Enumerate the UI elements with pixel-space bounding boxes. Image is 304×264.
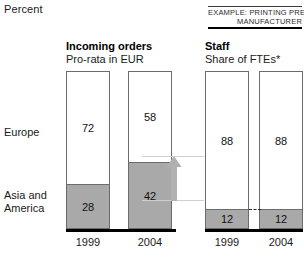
bar-value-label: 58 xyxy=(144,111,156,123)
bar-segment-europe: 88 xyxy=(206,72,248,209)
chart-figure: Percent EXAMPLE: PRINTING PRESS MANUFACT… xyxy=(0,0,304,264)
unit-label: Percent xyxy=(4,3,43,15)
x-axis-baseline xyxy=(205,229,303,232)
category-label-asia-america-line-2: America xyxy=(4,202,44,214)
bar-segment-asia-america: 12 xyxy=(206,209,248,228)
plot-area-staff: 88 12 88 12 xyxy=(205,71,303,232)
bar-staff-1999: 88 12 xyxy=(205,71,249,229)
bar-value-label: 12 xyxy=(275,213,287,225)
x-tick-label-orders-1999: 1999 xyxy=(66,236,110,248)
bar-value-label: 42 xyxy=(144,190,156,202)
bar-staff-2004: 88 12 xyxy=(259,71,303,229)
x-axis-baseline xyxy=(66,229,176,232)
category-label-asia-america: Asia and America xyxy=(4,189,47,215)
bar-value-label: 88 xyxy=(275,135,287,147)
bar-orders-1999: 72 28 xyxy=(66,71,110,229)
bar-segment-europe: 72 xyxy=(67,72,109,184)
panel-subtitle: Share of FTEs* xyxy=(205,53,280,66)
panel-heading-incoming-orders: Incoming orders Pro-rata in EUR xyxy=(66,40,152,66)
bar-segment-europe: 58 xyxy=(129,72,171,162)
x-tick-label-staff-2004: 2004 xyxy=(259,236,303,248)
example-callout-line-1: EXAMPLE: PRINTING PRESS xyxy=(208,8,302,17)
panel-subtitle: Pro-rata in EUR xyxy=(66,53,152,66)
bar-value-label: 12 xyxy=(221,213,233,225)
panel-title: Incoming orders xyxy=(66,40,152,53)
bar-value-label: 88 xyxy=(221,135,233,147)
bar-orders-2004: 58 42 xyxy=(128,71,172,229)
category-label-europe: Europe xyxy=(4,126,39,139)
bar-segment-asia-america: 28 xyxy=(67,184,109,228)
x-tick-label-orders-2004: 2004 xyxy=(128,236,172,248)
bar-segment-europe: 88 xyxy=(260,72,302,209)
example-callout: EXAMPLE: PRINTING PRESS MANUFACTURER xyxy=(208,6,302,29)
bar-value-label: 28 xyxy=(82,201,94,213)
panel-title: Staff xyxy=(205,40,280,53)
dashed-connector-line xyxy=(249,209,261,211)
plot-area-incoming-orders: 72 28 58 42 xyxy=(66,71,176,232)
bar-segment-asia-america: 12 xyxy=(260,209,302,228)
category-label-asia-america-line-1: Asia and xyxy=(4,189,47,201)
bar-segment-asia-america: 42 xyxy=(129,162,171,228)
panel-heading-staff: Staff Share of FTEs* xyxy=(205,40,280,66)
bar-value-label: 72 xyxy=(82,122,94,134)
x-tick-label-staff-1999: 1999 xyxy=(205,236,249,248)
example-callout-line-2: MANUFACTURER xyxy=(208,17,302,26)
